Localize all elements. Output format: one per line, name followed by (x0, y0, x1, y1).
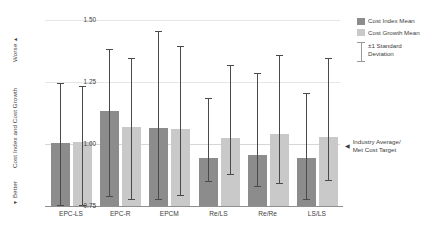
error-bar-ls-ls-cost-growth-mean (328, 58, 329, 181)
axis-direction-worse-text: Worse (11, 44, 18, 62)
legend-item-cost-growth-mean: Cost Growth Mean (357, 29, 420, 37)
y-axis-tick-1.50: 1.50 (56, 16, 96, 23)
legend-label-sd-line1: ±1 Standard (368, 42, 402, 49)
up-arrow-icon: ▲ (12, 37, 18, 42)
y-axis-tick-1.00: 1.00 (56, 140, 96, 147)
error-bar-re-re-cost-growth-mean (279, 55, 280, 184)
error-bar-icon (357, 42, 365, 62)
annotation-line2: Met Cost Target (353, 146, 397, 153)
axis-direction-better: ▼ Better (11, 181, 18, 205)
legend-item-cost-index-mean: Cost Index Mean (357, 17, 420, 25)
chart-legend: Cost Index Mean Cost Growth Mean ±1 Stan… (357, 17, 420, 62)
y-axis-tick-0.75: 0.75 (56, 202, 96, 209)
bar-group-epc-r (100, 20, 141, 206)
legend-item-standard-deviation: ±1 Standard Deviation (357, 42, 420, 62)
reference-line-annotation-text: Industry Average/ Met Cost Target (353, 138, 401, 153)
error-bar-re-re-cost-index-mean (257, 73, 258, 187)
error-bar-re-ls-cost-growth-mean (230, 65, 231, 175)
annotation-line1: Industry Average/ (353, 138, 401, 145)
cost-index-cost-growth-chart: Worse ▲ Cost Index and Cost Growth ▼ Bet… (0, 0, 443, 230)
bar-group-re-ls (199, 20, 240, 206)
bar-group-epcm (149, 20, 190, 206)
error-bar-epcm-cost-index-mean (158, 31, 159, 200)
plot-area (45, 20, 340, 206)
y-axis-title: Cost Index and Cost Growth (11, 88, 18, 168)
error-bar-epcm-cost-growth-mean (180, 46, 181, 196)
error-bar-epc-r-cost-growth-mean (131, 58, 132, 199)
error-bar-ls-ls-cost-index-mean (306, 93, 307, 200)
legend-label-standard-deviation: ±1 Standard Deviation (368, 42, 402, 57)
legend-label-sd-line2: Deviation (368, 50, 394, 57)
bar-group-ls-ls (297, 20, 338, 206)
legend-swatch-icon-cost-index-mean (357, 18, 365, 25)
y-axis-tick-1.25: 1.25 (56, 78, 96, 85)
legend-label-cost-growth-mean: Cost Growth Mean (368, 29, 420, 37)
axis-direction-better-text: Better (11, 181, 18, 198)
legend-label-cost-index-mean: Cost Index Mean (368, 17, 415, 25)
left-arrow-icon: ◀ (345, 142, 350, 149)
bar-group-epc-ls (51, 20, 92, 206)
legend-swatch-icon-cost-growth-mean (357, 29, 365, 36)
bar-group-re-re (248, 20, 289, 206)
x-axis-label-ls-ls: LS/LS (287, 210, 347, 217)
down-arrow-icon: ▼ (12, 200, 18, 205)
error-bar-epc-r-cost-index-mean (109, 49, 110, 198)
error-bar-re-ls-cost-index-mean (208, 98, 209, 182)
axis-direction-worse: Worse ▲ (11, 37, 18, 62)
reference-line-annotation: ◀ Industry Average/ Met Cost Target (345, 138, 401, 153)
